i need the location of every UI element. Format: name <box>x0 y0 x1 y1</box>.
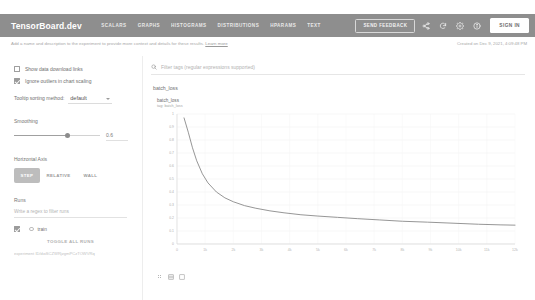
smoothing-slider[interactable]: 0.6 <box>14 130 130 142</box>
y-axis-tick-label: 0.1 <box>169 229 174 233</box>
show-download-links-row[interactable]: Show data download links <box>14 66 130 72</box>
tensorboard-app: TensorBoard.dev SCALARS GRAPHS HISTOGRAM… <box>0 0 535 300</box>
x-axis-tick-label: 1k <box>203 248 207 252</box>
send-feedback-button[interactable]: SEND FEEDBACK <box>355 19 415 33</box>
chart-svg: 10.90.80.70.60.50.40.30.20.1001k2k3k4k5k… <box>153 110 523 256</box>
x-axis-tick-label: 6k <box>344 248 348 252</box>
tab-distributions[interactable]: DISTRIBUTIONS <box>212 23 265 28</box>
main-content: Filter tags (regular expressions support… <box>143 56 535 300</box>
x-axis-tick-label: 10k <box>456 248 462 252</box>
chart-line-series <box>184 118 515 225</box>
chart-title: batch_loss <box>157 98 523 103</box>
share-icon[interactable] <box>419 19 432 32</box>
x-axis-tick-label: 7k <box>372 248 376 252</box>
tab-scalars[interactable]: SCALARS <box>96 23 132 28</box>
tab-histograms[interactable]: HISTOGRAMS <box>166 23 213 28</box>
x-axis-tick-label: 0 <box>176 248 178 252</box>
ignore-outliers-row[interactable]: Ignore outliers in chart scaling <box>14 78 130 84</box>
run-item-train[interactable]: train <box>14 226 130 232</box>
experiment-description-bar: Add a name and description to the experi… <box>0 37 535 53</box>
axis-option-wall[interactable]: WALL <box>77 168 104 183</box>
x-axis-tick-label: 8k <box>400 248 404 252</box>
tag-filter-bar[interactable]: Filter tags (regular expressions support… <box>151 64 525 75</box>
experiment-id-text: experiment ID/dwSCZWRjzgmPCzTOWVRq <box>14 251 136 256</box>
x-axis-tick-label: 3k <box>260 248 264 252</box>
y-axis-tick-label: 0 <box>172 242 174 246</box>
experiment-description: Add a name and description to the experi… <box>11 41 228 46</box>
tab-hparams[interactable]: HPARAMS <box>265 23 302 28</box>
expand-icon[interactable] <box>179 274 185 280</box>
tooltip-sorting-row: Tooltip sorting method: default <box>14 95 130 104</box>
show-download-links-label: Show data download links <box>25 66 83 72</box>
settings-gear-icon[interactable] <box>453 19 466 32</box>
horizontal-axis-button-group: STEP RELATIVE WALL <box>14 168 130 183</box>
chevron-down-icon <box>106 98 110 100</box>
tooltip-sorting-value: default <box>70 95 87 101</box>
info-circle-icon[interactable] <box>470 19 483 32</box>
data-table-icon[interactable] <box>168 274 174 280</box>
settings-sidebar: Show data download links Ignore outliers… <box>0 56 143 300</box>
dots-grid-icon[interactable] <box>157 274 163 280</box>
chart-plot-area[interactable]: 10.90.80.70.60.50.40.30.20.1001k2k3k4k5k… <box>153 110 523 256</box>
ignore-outliers-checkbox[interactable] <box>14 78 20 84</box>
x-axis-tick-label: 2k <box>231 248 235 252</box>
smoothing-label: Smoothing <box>14 118 130 124</box>
y-axis-tick-label: 0.8 <box>169 138 174 142</box>
x-axis-tick-label: 11k <box>484 248 490 252</box>
top-navigation-bar: TensorBoard.dev SCALARS GRAPHS HISTOGRAM… <box>0 14 535 37</box>
slider-fill <box>14 135 68 136</box>
scalar-chart-card: batch_loss tag: batch_loss 10.90.80.70.6… <box>153 98 523 266</box>
sign-in-button[interactable]: SIGN IN <box>490 18 529 33</box>
brand-title[interactable]: TensorBoard.dev <box>11 21 82 31</box>
tooltip-sorting-select[interactable]: default <box>68 95 112 104</box>
smoothing-value-input[interactable]: 0.6 <box>106 132 128 141</box>
y-axis-tick-label: 0.5 <box>169 177 174 181</box>
x-axis-tick-label: 5k <box>316 248 320 252</box>
y-axis-tick-label: 0.6 <box>169 164 174 168</box>
runs-label: Runs <box>14 197 130 203</box>
axis-option-relative[interactable]: RELATIVE <box>40 168 77 183</box>
tag-group-header[interactable]: batch_loss <box>153 85 527 91</box>
run-checkbox[interactable] <box>14 226 20 232</box>
tab-text[interactable]: TEXT <box>302 23 327 28</box>
slider-thumb[interactable] <box>65 133 70 138</box>
learn-more-link[interactable]: Learn more <box>205 41 227 46</box>
search-icon <box>151 64 157 70</box>
show-download-links-checkbox[interactable] <box>14 66 20 72</box>
run-color-dot <box>29 227 34 232</box>
x-axis-tick-label: 4k <box>288 248 292 252</box>
created-timestamp: Created on Dec 9, 2021, 4:09:48 PM <box>457 41 527 46</box>
y-axis-tick-label: 0.7 <box>169 151 174 155</box>
horizontal-axis-label: Horizontal Axis <box>14 156 130 162</box>
chart-subtitle: tag: batch_loss <box>157 104 523 108</box>
tag-filter-input[interactable]: Filter tags (regular expressions support… <box>161 64 255 70</box>
toggle-all-runs-button[interactable]: TOGGLE ALL RUNS <box>14 239 127 244</box>
y-axis-tick-label: 0.2 <box>169 216 174 220</box>
ignore-outliers-label: Ignore outliers in chart scaling <box>25 78 91 84</box>
y-axis-tick-label: 0.3 <box>169 203 174 207</box>
y-axis-tick-label: 1 <box>172 112 174 116</box>
run-name-label: train <box>38 227 47 232</box>
nav-items: SCALARS GRAPHS HISTOGRAMS DISTRIBUTIONS … <box>96 23 326 28</box>
x-axis-tick-label: 9k <box>429 248 433 252</box>
experiment-description-text: Add a name and description to the experi… <box>11 41 204 46</box>
y-axis-tick-label: 0.4 <box>169 190 174 194</box>
axis-option-step[interactable]: STEP <box>14 168 40 183</box>
y-axis-tick-label: 0.9 <box>169 125 174 129</box>
tooltip-sorting-label: Tooltip sorting method: <box>14 95 64 101</box>
chart-toolbar <box>157 274 185 280</box>
runs-filter-input[interactable]: Write a regex to filter runs <box>14 209 127 219</box>
x-axis-tick-label: 12k <box>512 248 518 252</box>
refresh-icon[interactable] <box>436 19 449 32</box>
tab-graphs[interactable]: GRAPHS <box>132 23 165 28</box>
